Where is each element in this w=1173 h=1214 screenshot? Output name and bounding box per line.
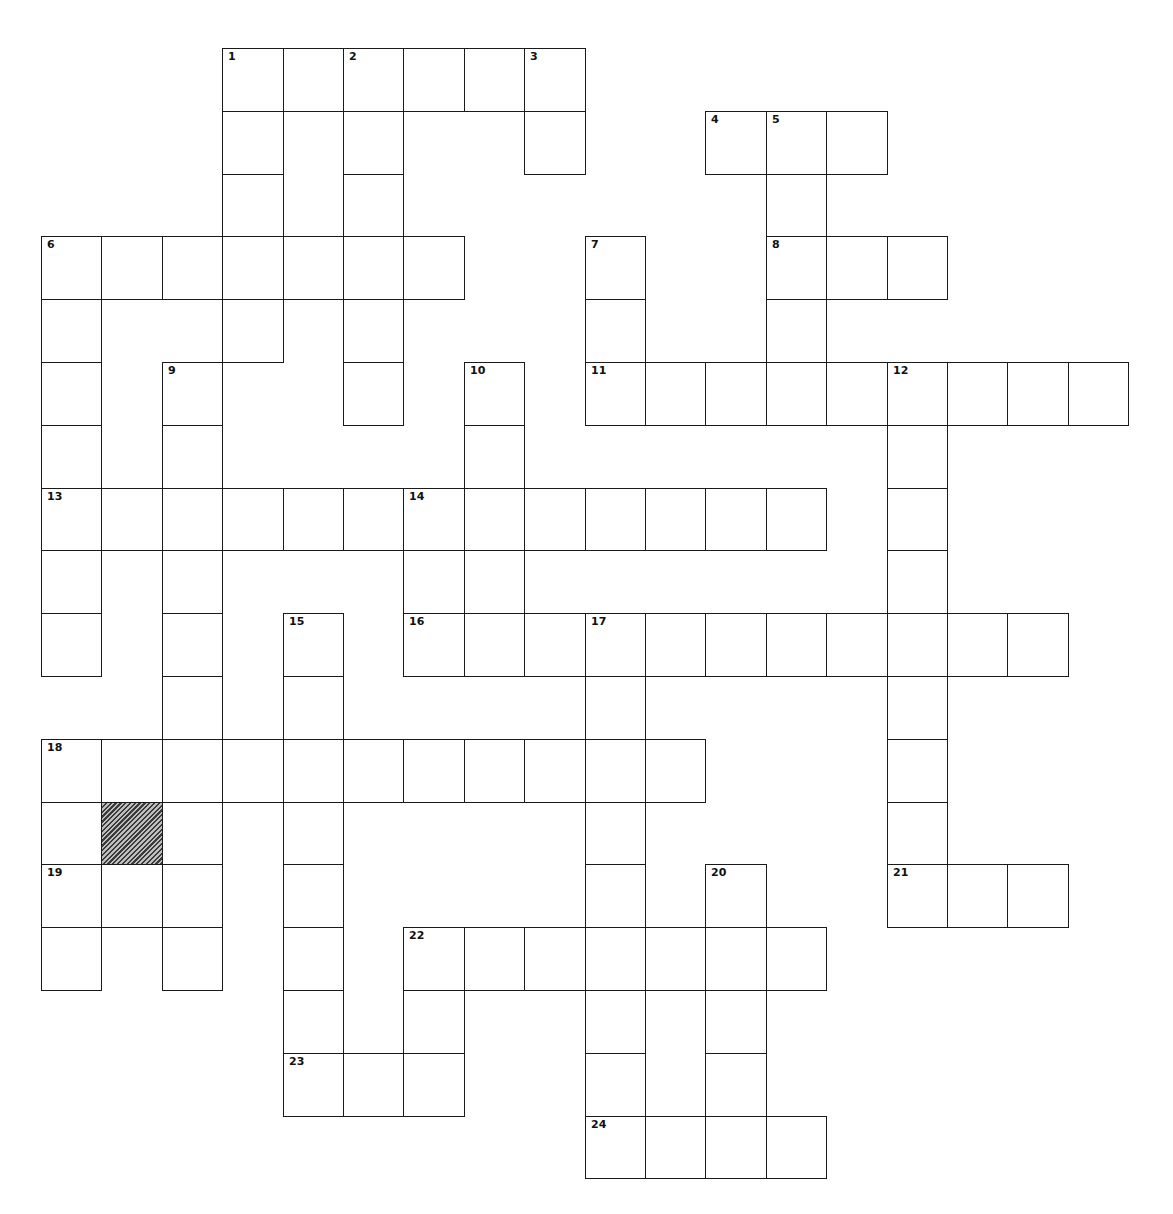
grid-cell[interactable] [887, 739, 948, 803]
grid-cell[interactable] [464, 488, 525, 551]
grid-cell[interactable] [162, 613, 223, 677]
grid-cell[interactable] [887, 676, 948, 740]
grid-cell[interactable] [524, 613, 586, 677]
grid-cell[interactable]: 15 [283, 613, 344, 677]
grid-cell[interactable] [41, 613, 102, 677]
grid-cell[interactable] [283, 802, 344, 865]
grid-cell[interactable]: 18 [41, 739, 102, 803]
grid-cell[interactable]: 24 [585, 1116, 646, 1179]
grid-cell[interactable] [162, 488, 223, 551]
grid-cell[interactable] [283, 927, 344, 991]
grid-cell[interactable] [162, 864, 223, 928]
grid-cell[interactable] [162, 550, 223, 614]
grid-cell[interactable] [585, 299, 646, 363]
grid-cell[interactable] [585, 864, 646, 928]
grid-cell[interactable]: 2 [343, 48, 404, 112]
grid-cell[interactable] [222, 488, 284, 551]
grid-cell[interactable] [283, 676, 344, 740]
grid-cell[interactable] [222, 174, 284, 237]
grid-cell[interactable] [705, 613, 767, 677]
grid-cell[interactable] [585, 990, 646, 1054]
grid-cell[interactable] [585, 488, 646, 551]
grid-cell[interactable] [887, 613, 948, 677]
grid-cell[interactable] [343, 174, 404, 237]
grid-cell[interactable] [283, 48, 344, 112]
grid-cell[interactable] [283, 236, 344, 300]
grid-cell[interactable]: 11 [585, 362, 646, 426]
grid-cell[interactable] [645, 362, 706, 426]
grid-cell[interactable] [585, 676, 646, 740]
grid-cell[interactable] [766, 1116, 827, 1179]
grid-cell[interactable] [343, 236, 404, 300]
grid-cell[interactable]: 3 [524, 48, 586, 112]
grid-cell[interactable] [403, 48, 465, 112]
grid-cell[interactable] [162, 425, 223, 489]
grid-cell[interactable] [222, 739, 284, 803]
grid-cell[interactable] [826, 613, 888, 677]
grid-cell[interactable]: 13 [41, 488, 102, 551]
grid-cell[interactable] [162, 927, 223, 991]
grid-cell[interactable] [585, 802, 646, 865]
grid-cell[interactable] [887, 488, 948, 551]
grid-cell[interactable] [343, 1053, 404, 1117]
grid-cell[interactable] [585, 739, 646, 803]
grid-cell[interactable]: 4 [705, 111, 767, 175]
grid-cell[interactable]: 10 [464, 362, 525, 426]
grid-cell[interactable] [766, 488, 827, 551]
grid-cell[interactable] [222, 111, 284, 175]
grid-cell[interactable]: 9 [162, 362, 223, 426]
grid-cell[interactable] [41, 802, 102, 865]
grid-cell[interactable] [585, 1053, 646, 1117]
grid-cell[interactable]: 12 [887, 362, 948, 426]
grid-cell[interactable] [1007, 362, 1069, 426]
grid-cell[interactable] [283, 488, 344, 551]
grid-cell[interactable]: 7 [585, 236, 646, 300]
grid-cell[interactable] [283, 990, 344, 1054]
grid-cell[interactable] [826, 111, 888, 175]
grid-cell[interactable] [887, 236, 948, 300]
grid-cell[interactable] [464, 550, 525, 614]
grid-cell[interactable]: 23 [283, 1053, 344, 1117]
grid-cell[interactable] [101, 488, 163, 551]
grid-cell[interactable] [162, 802, 223, 865]
grid-cell[interactable] [41, 299, 102, 363]
grid-cell[interactable] [403, 550, 465, 614]
grid-cell[interactable] [826, 362, 888, 426]
grid-cell[interactable] [766, 299, 827, 363]
grid-cell[interactable] [645, 739, 706, 803]
grid-cell[interactable] [645, 613, 706, 677]
grid-cell[interactable] [947, 613, 1008, 677]
grid-cell[interactable] [101, 739, 163, 803]
grid-cell[interactable] [464, 927, 525, 991]
grid-cell[interactable]: 17 [585, 613, 646, 677]
grid-cell[interactable] [524, 927, 586, 991]
grid-cell[interactable] [403, 739, 465, 803]
grid-cell[interactable] [524, 739, 586, 803]
grid-cell[interactable] [343, 111, 404, 175]
grid-cell[interactable] [947, 362, 1008, 426]
grid-cell[interactable] [766, 174, 827, 237]
grid-cell[interactable] [222, 236, 284, 300]
grid-cell[interactable] [524, 488, 586, 551]
grid-cell[interactable] [101, 236, 163, 300]
grid-cell[interactable] [645, 488, 706, 551]
grid-cell[interactable] [705, 990, 767, 1054]
grid-cell[interactable]: 19 [41, 864, 102, 928]
grid-cell[interactable] [1068, 362, 1129, 426]
grid-cell[interactable] [464, 739, 525, 803]
grid-cell[interactable] [162, 739, 223, 803]
grid-cell[interactable] [162, 236, 223, 300]
grid-cell[interactable]: 6 [41, 236, 102, 300]
grid-cell[interactable] [343, 362, 404, 426]
grid-cell[interactable] [283, 739, 344, 803]
grid-cell[interactable] [343, 739, 404, 803]
grid-cell[interactable] [705, 362, 767, 426]
grid-cell[interactable] [464, 48, 525, 112]
grid-cell[interactable]: 20 [705, 864, 767, 928]
grid-cell[interactable]: 21 [887, 864, 948, 928]
grid-cell[interactable]: 1 [222, 48, 284, 112]
grid-cell[interactable] [464, 425, 525, 489]
grid-cell[interactable]: 22 [403, 927, 465, 991]
grid-cell[interactable] [766, 362, 827, 426]
grid-cell[interactable] [101, 864, 163, 928]
